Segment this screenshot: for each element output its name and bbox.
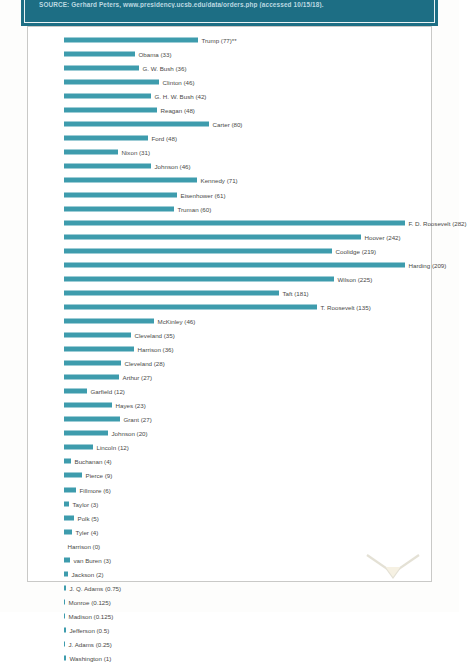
bar-row: Arthur (27) [28,370,433,384]
bar-row: Coolidge (219) [28,244,433,258]
bar-segment [64,262,405,267]
bar-label: Monroe (0.125) [65,598,111,605]
bar-row: Eisenhower (61) [28,188,433,202]
bar-row: Pierce (9) [28,468,433,482]
bar-label: Kennedy (71) [197,177,238,184]
bar-label: Coolidge (219) [332,247,376,254]
bar-row: Garfield (12) [28,384,433,398]
bar-row: van Buren (3) [28,553,433,567]
bar-track [64,333,131,338]
bar-track [64,347,134,352]
executive-orders-bar-chart: Trump (77)**Obama (33)G. W. Bush (36)Cli… [28,33,433,579]
bar-label: Taft (181) [279,289,309,296]
bar-label: Clinton (46) [159,79,194,86]
bar-label: Taylor (3) [69,500,98,507]
bar-segment [64,290,279,295]
bar-row: J. Adams (0.25) [28,637,433,651]
bar-row: Reagan (48) [28,103,433,117]
bar-track [64,206,174,211]
bar-label: Madison (0.125) [65,612,113,619]
bar-segment [64,304,317,309]
bar-track [64,417,120,422]
bar-track [64,80,159,85]
bar-segment [64,318,154,323]
bar-label: Fillmore (6) [76,486,111,493]
bar-label: Pierce (9) [82,472,112,479]
bar-label: Washington (1) [66,655,111,662]
bar-row: G. H. W. Bush (42) [28,89,433,103]
bar-row: Johnson (46) [28,159,433,173]
bar-row: Jackson (2) [28,567,433,581]
bar-row: Jefferson (0.5) [28,623,433,637]
bar-track [64,459,71,464]
bar-row: Trump (77)** [28,33,433,47]
bar-label: Johnson (46) [151,163,191,170]
chart-card: Trump (77)**Obama (33)G. W. Bush (36)Cli… [27,26,432,582]
bar-track [64,515,74,520]
bar-label: Polk (5) [74,514,99,521]
bar-segment [64,52,135,57]
bar-segment [64,108,157,113]
bar-segment [64,333,131,338]
bar-track [64,431,108,436]
bar-label: Buchanan (4) [71,458,112,465]
bar-track [64,445,93,450]
bar-label: Jefferson (0.5) [66,626,109,633]
bar-segment [64,431,108,436]
bar-label: Ford (48) [148,135,177,142]
bar-label: T. Roosevelt (135) [317,303,371,310]
bar-row: Truman (60) [28,202,433,216]
bar-track [64,220,405,225]
bar-row: Harrison (36) [28,342,433,356]
bar-row: Clinton (46) [28,75,433,89]
bar-label: Grant (27) [120,416,152,423]
bar-segment [64,164,151,169]
bar-segment [64,417,120,422]
bar-label: Lincoln (12) [93,444,129,451]
bar-row: Taylor (3) [28,497,433,511]
bar-track [64,389,87,394]
bar-track [64,276,334,281]
bar-track [64,262,405,267]
bar-segment [64,234,361,239]
bar-row: J. Q. Adams (0.75) [28,581,433,595]
bar-segment [64,389,87,394]
bar-label: G. H. W. Bush (42) [151,93,206,100]
bar-label: Wilson (225) [334,275,372,282]
bar-label: Hayes (23) [112,402,146,409]
bar-row: Fillmore (6) [28,483,433,497]
bar-label: J. Adams (0.25) [65,641,112,648]
bar-segment [64,80,159,85]
bar-track [64,38,198,43]
bar-track [64,318,154,323]
bar-track [64,108,157,113]
bar-segment [64,375,119,380]
bar-track [64,234,361,239]
bar-label: Hoover (242) [361,233,401,240]
bar-track [64,304,317,309]
bar-row: Washington (1) [28,651,433,665]
bar-segment [64,38,198,43]
bar-label: G. W. Bush (36) [139,65,187,72]
bar-segment [64,515,74,520]
bar-label: Harrison (36) [134,346,174,353]
bar-segment [64,94,151,99]
bar-segment [64,136,148,141]
bar-row: G. W. Bush (36) [28,61,433,75]
bar-track [64,290,279,295]
bar-row: Buchanan (4) [28,454,433,468]
bar-track [64,248,332,253]
bar-label: Truman (60) [174,205,211,212]
bar-label: J. Q. Adams (0.75) [66,584,121,591]
bar-label: Jackson (2) [68,570,103,577]
source-banner-inner-border: SOURCE: Gerhard Peters, www.presidency.u… [24,0,435,23]
bar-segment [64,66,139,71]
bar-segment [64,150,118,155]
bar-segment [64,178,197,183]
bar-track [64,122,209,127]
bar-label: Harding (209) [405,261,446,268]
bar-track [64,150,118,155]
bar-segment [64,248,332,253]
bar-row: F. D. Roosevelt (282) [28,216,433,230]
bar-row: Lincoln (12) [28,440,433,454]
